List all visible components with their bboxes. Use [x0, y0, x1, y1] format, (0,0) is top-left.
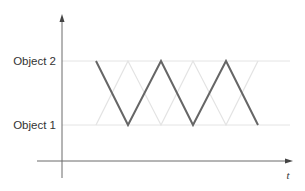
y-axis-arrow-icon: [60, 14, 65, 22]
x-axis-arrow-icon: [285, 159, 293, 164]
y-label-object-2: Object 2: [13, 55, 56, 67]
x-axis-label: t: [286, 169, 290, 181]
zigzag-diagram: Object 2 Object 1 t: [0, 0, 305, 191]
active-path: [96, 61, 258, 125]
y-label-object-1: Object 1: [13, 119, 56, 131]
